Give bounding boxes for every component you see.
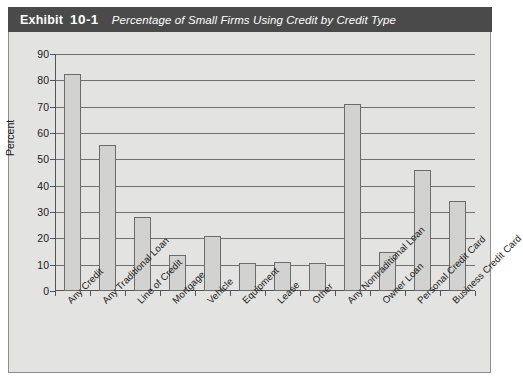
x-axis-tick-mark: [440, 291, 441, 296]
x-axis-tick-mark: [55, 291, 56, 296]
x-axis-tick-mark: [265, 291, 266, 296]
y-axis-tick-label: 0: [25, 285, 49, 297]
y-axis-title: Percent: [4, 120, 16, 156]
y-axis-tick-label: 90: [25, 48, 49, 60]
exhibit-number: 10-1: [70, 12, 99, 27]
bar: [64, 74, 80, 291]
x-axis-tick-mark: [125, 291, 126, 296]
bar: [449, 201, 465, 291]
y-axis-tick-label: 20: [25, 232, 49, 244]
plot-frame: [55, 54, 475, 291]
y-axis-tick-label: 10: [25, 259, 49, 271]
exhibit-header-bar: Exhibit 10-1 Percentage of Small Firms U…: [8, 7, 492, 32]
bar: [344, 104, 360, 291]
bar: [204, 236, 220, 291]
x-axis-tick-mark: [475, 291, 476, 296]
x-axis-tick-mark: [195, 291, 196, 296]
x-axis-tick-mark: [370, 291, 371, 296]
x-axis-tick-mark: [335, 291, 336, 296]
y-axis-tick-label: 30: [25, 206, 49, 218]
exhibit-title: Percentage of Small Firms Using Credit b…: [112, 14, 396, 26]
y-axis-tick-label: 60: [25, 127, 49, 139]
y-axis-tick-label: 70: [25, 101, 49, 113]
bar-chart: Percent 0102030405060708090 Any CreditAn…: [8, 32, 491, 373]
x-axis-tick-mark: [405, 291, 406, 296]
x-axis-tick-mark: [230, 291, 231, 296]
y-axis-tick-label: 40: [25, 180, 49, 192]
x-axis-tick-mark: [160, 291, 161, 296]
y-axis-tick-label: 50: [25, 153, 49, 165]
y-axis-tick-label: 80: [25, 74, 49, 86]
x-axis-tick-mark: [90, 291, 91, 296]
exhibit-label: Exhibit: [20, 13, 63, 27]
x-axis-tick-mark: [300, 291, 301, 296]
